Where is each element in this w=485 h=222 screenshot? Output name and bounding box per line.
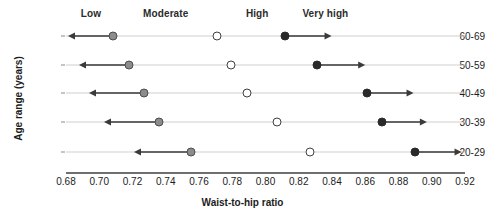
moderate-threshold-marker — [226, 60, 235, 69]
x-axis-tick-0.84: 0.84 — [322, 176, 341, 187]
x-axis-tick-0.76: 0.76 — [189, 176, 208, 187]
range-arrow-left — [89, 87, 144, 99]
x-axis-title: Waist-to-hip ratio — [0, 197, 485, 208]
x-axis-tick-0.88: 0.88 — [389, 176, 408, 187]
row-gridline — [66, 36, 465, 37]
y-axis-tick-mark — [61, 93, 65, 94]
x-axis-tick-0.92: 0.92 — [455, 176, 474, 187]
x-axis-tick-0.90: 0.90 — [422, 176, 441, 187]
moderate-threshold-marker — [243, 89, 252, 98]
x-axis-tick-0.70: 0.70 — [90, 176, 109, 187]
very-high-threshold-marker — [362, 89, 371, 98]
very-high-threshold-marker — [281, 32, 290, 41]
moderate-threshold-marker — [213, 32, 222, 41]
moderate-threshold-marker — [273, 118, 282, 127]
x-axis-tick-0.74: 0.74 — [156, 176, 175, 187]
x-axis-tick-0.80: 0.80 — [256, 176, 275, 187]
x-axis-tick-0.68: 0.68 — [56, 176, 75, 187]
x-axis-tick-0.82: 0.82 — [289, 176, 308, 187]
range-arrow-left — [134, 146, 191, 158]
range-arrow-right — [367, 87, 414, 99]
low-threshold-marker — [155, 118, 164, 127]
range-arrow-right — [317, 59, 365, 71]
moderate-threshold-marker — [306, 147, 315, 156]
very-high-threshold-marker — [377, 118, 386, 127]
range-arrow-right — [285, 30, 332, 42]
x-axis-tick-0.86: 0.86 — [356, 176, 375, 187]
y-axis-tick-mark — [61, 122, 65, 123]
low-threshold-marker — [125, 60, 134, 69]
y-axis-tick-mark — [61, 36, 65, 37]
plot-area — [0, 0, 485, 222]
low-threshold-marker — [140, 89, 149, 98]
range-arrow-right — [415, 146, 462, 158]
very-high-threshold-marker — [411, 147, 420, 156]
low-threshold-marker — [186, 147, 195, 156]
range-arrow-left — [68, 30, 113, 42]
range-arrow-right — [382, 116, 427, 128]
y-axis-tick-mark — [61, 64, 65, 65]
x-axis-line — [66, 172, 465, 174]
row-gridline — [66, 151, 465, 152]
range-arrow-left — [104, 116, 159, 128]
whr-risk-chart: LowModerateHighVery high Age range (year… — [0, 0, 485, 222]
x-axis-tick-0.78: 0.78 — [223, 176, 242, 187]
low-threshold-marker — [108, 32, 117, 41]
range-arrow-left — [79, 59, 129, 71]
x-axis-tick-0.72: 0.72 — [123, 176, 142, 187]
y-axis-tick-mark — [61, 151, 65, 152]
very-high-threshold-marker — [313, 60, 322, 69]
